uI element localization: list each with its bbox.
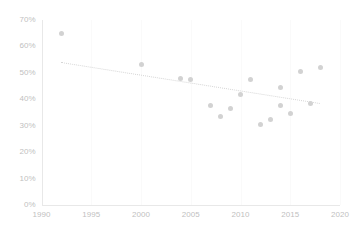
x-gridline [241,20,242,205]
x-gridline [191,20,192,205]
y-tick-label: 60% [6,42,36,50]
x-gridline [91,20,92,205]
x-axis-line [42,205,341,206]
data-point [248,77,253,82]
y-tick-label: 50% [6,69,36,77]
x-tick-label: 2010 [224,211,258,219]
x-tick-label: 1995 [74,211,108,219]
y-tick-label: 40% [6,95,36,103]
y-tick-label: 0% [6,201,36,209]
data-point [59,31,64,36]
x-tick-label: 2020 [323,211,350,219]
x-tick-label: 1990 [25,211,59,219]
data-point [258,122,263,127]
x-gridline [141,20,142,205]
x-tick-label: 2005 [174,211,208,219]
y-axis-line [42,20,43,205]
data-point [318,65,323,70]
data-point [238,92,243,97]
y-tick-label: 30% [6,122,36,130]
data-point [268,117,273,122]
x-tick-label: 2000 [124,211,158,219]
scatter-chart: 0%10%20%30%40%50%60%70% 1990199520002005… [0,0,350,229]
y-tick-label: 10% [6,175,36,183]
data-point [298,69,303,74]
x-gridline [340,20,341,205]
data-point [278,85,283,90]
x-tick-label: 2015 [273,211,307,219]
y-tick-label: 70% [6,16,36,24]
y-tick-label: 20% [6,148,36,156]
